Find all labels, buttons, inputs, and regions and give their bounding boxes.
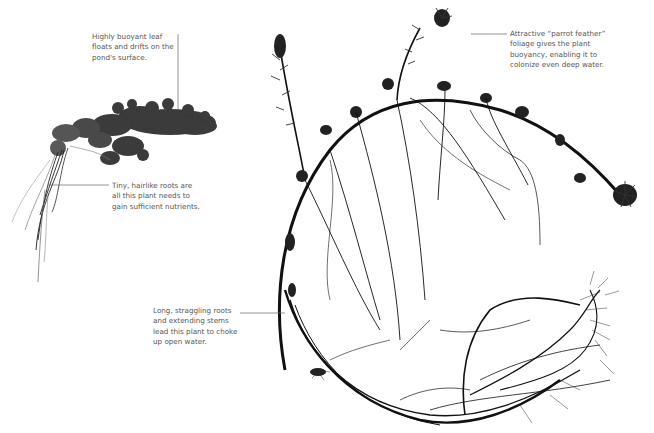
annotation-floating-leaf: Highly buoyant leaf floats and drifts on… xyxy=(92,32,192,63)
annotation-parrot-feather-foliage: Attractive “parrot feather” foliage give… xyxy=(510,29,630,71)
botanical-figure: Highly buoyant leaf floats and drifts on… xyxy=(0,0,654,433)
annotation-long-straggling-roots: Long, straggling roots and extending ste… xyxy=(153,306,263,348)
leader-lines xyxy=(48,34,507,313)
annotation-tiny-hairlike-roots: Tiny, hairlike roots are all this plant … xyxy=(112,181,222,212)
